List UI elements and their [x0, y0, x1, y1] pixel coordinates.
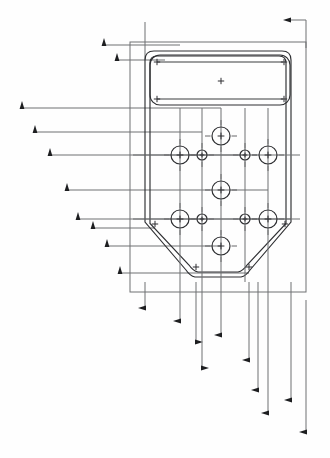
dim-v-6-arrowhead: [65, 183, 70, 191]
small-hole-mid-left-center-mark: [200, 153, 205, 158]
dim-h-1-arrowhead: [138, 306, 146, 311]
dim-v-1-arrowhead: [102, 38, 107, 46]
hole-center-lines: [133, 108, 300, 282]
dim-h-6-arrowhead: [242, 358, 250, 363]
dim-v-4-arrowhead: [33, 125, 38, 133]
large-hole-group: [171, 127, 277, 255]
hole-top-center-center-mark: [218, 133, 225, 140]
dim-v-5-arrowhead: [48, 148, 53, 156]
hole-center-center-mark: [218, 187, 225, 194]
dim-h-10-arrowhead: [299, 430, 307, 435]
hole-low-right-center-mark: [265, 216, 272, 223]
dim-h-9-arrowhead: [284, 398, 292, 403]
small-hole-low-left-center-mark: [200, 217, 205, 222]
top-right-arrowhead: [283, 18, 291, 23]
dim-v-10-arrowhead: [118, 266, 123, 274]
hole-mid-right-center-mark: [265, 152, 272, 159]
dim-v-8-arrowhead: [91, 221, 96, 229]
dim-v-7-arrowhead: [76, 212, 81, 220]
hole-low-left-center-mark: [177, 216, 184, 223]
top-right-dimension: [283, 18, 306, 48]
top-rounded-slot: [150, 55, 290, 105]
dim-v-9-arrowhead: [105, 239, 110, 247]
dim-h-4-arrowhead: [214, 333, 222, 338]
small-hole-mid-right-center-mark: [243, 153, 248, 158]
bottom-horizontal-dimension-lines: [138, 282, 307, 434]
dim-v-2-arrowhead: [115, 53, 120, 61]
engineering-drawing-canvas: [0, 0, 330, 458]
small-hole-group: [197, 150, 250, 224]
drawing-svg: [0, 0, 330, 458]
small-hole-low-right-center-mark: [243, 217, 248, 222]
cross-plate-bl: [193, 264, 199, 270]
dim-h-2-arrowhead: [173, 319, 181, 324]
dim-v-3-arrowhead: [20, 101, 25, 109]
hole-mid-left-center-mark: [177, 152, 184, 159]
cross-slot-c: [218, 78, 224, 84]
cross-slot-bl: [154, 96, 160, 102]
dim-h-7-arrowhead: [251, 388, 259, 393]
dim-h-5-arrowhead: [201, 366, 209, 371]
hole-bottom-center-center-mark: [218, 243, 225, 250]
dim-h-8-arrowhead: [261, 411, 269, 416]
